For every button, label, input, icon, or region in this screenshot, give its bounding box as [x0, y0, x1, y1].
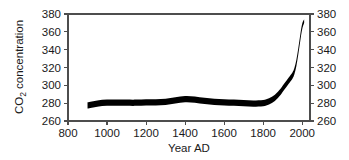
y-tick-label-right-280: 280 — [317, 97, 336, 109]
x-tick-label-1200: 1200 — [133, 127, 159, 139]
y-tick-label-right-360: 360 — [317, 26, 336, 38]
x-tick-label-1000: 1000 — [94, 127, 120, 139]
x-tick-label-1800: 1800 — [250, 127, 276, 139]
y-tick-label-right-320: 320 — [317, 62, 336, 74]
y-tick-label-left-340: 340 — [42, 44, 61, 56]
y-tick-label-right-300: 300 — [317, 79, 336, 91]
x-tick-label-800: 800 — [58, 127, 77, 139]
y-tick-label-right-380: 380 — [317, 8, 336, 20]
y-tick-label-left-300: 300 — [42, 79, 61, 91]
y-axis-tick-labels-right: 260280300320340360380 — [317, 8, 336, 127]
co2-chart-svg: 260280300320340360380 260280300320340360… — [0, 0, 349, 160]
y-tick-label-right-260: 260 — [317, 115, 336, 127]
x-tick-label-2000: 2000 — [289, 127, 315, 139]
y-axis-title-rest: concentration — [13, 20, 25, 92]
y-axis-title-base: CO — [13, 97, 25, 114]
y-tick-label-left-260: 260 — [42, 115, 61, 127]
y-tick-label-right-340: 340 — [317, 44, 336, 56]
chart-figure: 260280300320340360380 260280300320340360… — [0, 0, 349, 160]
x-tick-label-1600: 1600 — [211, 127, 237, 139]
y-tick-label-left-320: 320 — [42, 62, 61, 74]
y-tick-label-left-380: 380 — [42, 8, 61, 20]
y-tick-label-left-280: 280 — [42, 97, 61, 109]
x-tick-label-1400: 1400 — [172, 127, 198, 139]
y-tick-label-left-360: 360 — [42, 26, 61, 38]
y-axis-tick-labels-left: 260280300320340360380 — [42, 8, 61, 127]
x-axis-title: Year AD — [168, 142, 210, 154]
